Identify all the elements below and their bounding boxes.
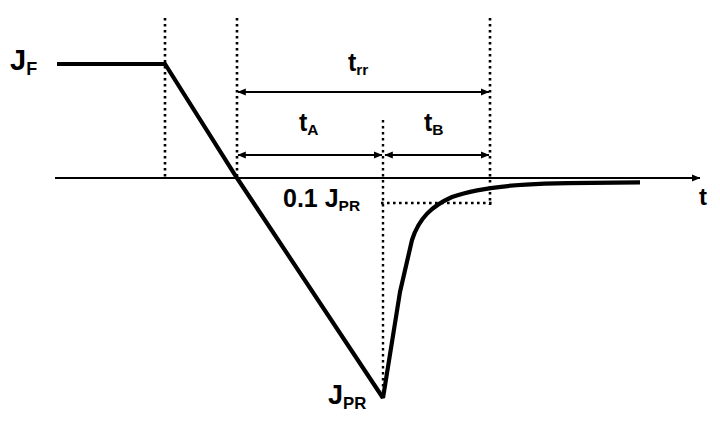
label-forward-current-base: J [10,44,26,76]
label-ten-percent-level-base: 0.1 J [283,184,339,212]
label-time-axis-base: t [699,183,707,210]
label-ten-percent-level-sub: PR [339,197,361,214]
label-ten-percent-level: 0.1 JPR [283,186,360,211]
reverse-recovery-diagram: JF JPR 0.1 JPR trr tA tB t [0,0,720,431]
label-peak-reverse-current-sub: PR [343,394,366,413]
label-forward-current: JF [10,46,37,75]
waveform-recovery-segment [383,182,640,398]
label-time-a-sub: A [307,121,318,138]
label-reverse-recovery-time: trr [348,50,368,75]
label-peak-reverse-current-base: J [328,380,343,410]
label-forward-current-sub: F [26,59,37,79]
label-time-axis: t [699,185,707,209]
label-time-b: tB [424,110,444,135]
label-peak-reverse-current: JPR [328,382,366,409]
waveform-fall-segment [57,64,383,398]
label-reverse-recovery-time-sub: rr [356,61,368,78]
label-time-a: tA [299,110,319,135]
label-time-b-sub: B [432,121,443,138]
